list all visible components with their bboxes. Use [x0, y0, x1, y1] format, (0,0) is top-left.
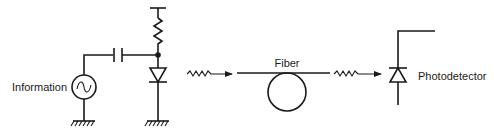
wavy-arrow-icon-1: [187, 71, 232, 76]
capacitor-icon: [114, 48, 158, 62]
wavy-arrow-icon-2: [334, 71, 381, 76]
optical-link-diagram: Information Fiber: [0, 0, 494, 131]
ac-source: [72, 75, 96, 99]
fiber-loop-icon: [237, 73, 330, 111]
detector-label: Photodetector: [418, 70, 487, 82]
diode-icon: [149, 55, 167, 121]
bias-resistor-icon: [150, 8, 166, 55]
source-wire-top: [84, 55, 113, 75]
ground-icon-1: [71, 121, 95, 126]
fiber-label: Fiber: [274, 57, 299, 69]
ground-icon-2: [145, 121, 169, 126]
sine-wave-icon: [77, 82, 91, 92]
photodiode-icon: [389, 31, 435, 105]
source-label: Information: [12, 81, 67, 93]
